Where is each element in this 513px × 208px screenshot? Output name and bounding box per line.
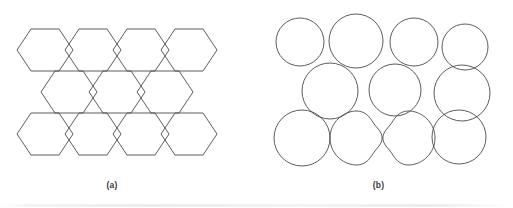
hexagon-group xyxy=(17,29,217,155)
hexagon-lattice-drawing xyxy=(0,0,256,208)
lattice-circle xyxy=(434,65,490,121)
circle-group xyxy=(274,14,490,166)
panel-a-hexagonal-lattice: (a) xyxy=(0,0,256,208)
lattice-circle xyxy=(274,110,330,166)
lattice-circle xyxy=(329,14,383,68)
panel-a-caption: (a) xyxy=(0,181,240,190)
distorted-lattice-blob xyxy=(330,111,382,165)
lattice-circle xyxy=(369,64,421,116)
lattice-circle xyxy=(442,24,488,70)
page-edge-artifact xyxy=(0,204,513,207)
circle-packing-drawing xyxy=(256,0,513,208)
lattice-circle xyxy=(432,110,486,164)
blob-group xyxy=(330,111,435,165)
panel-b-caption: (b) xyxy=(250,181,507,190)
distorted-lattice-blob xyxy=(383,111,435,165)
figure-container: (a) (b) xyxy=(0,0,513,208)
lattice-circle xyxy=(390,18,438,66)
panel-b-overlapping-circles: (b) xyxy=(256,0,513,208)
lattice-circle xyxy=(302,63,358,119)
lattice-circle xyxy=(276,18,324,66)
